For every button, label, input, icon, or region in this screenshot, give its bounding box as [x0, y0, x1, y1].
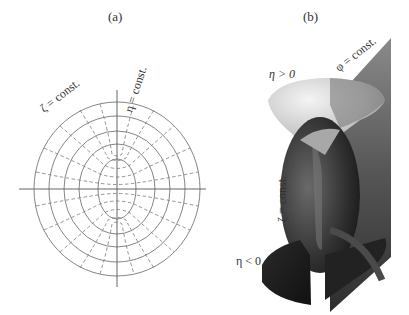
- prolate-spheroidal-cross-section: ζ = const. η = const.: [0, 0, 220, 315]
- label-eta-const: η = const.: [122, 65, 150, 114]
- label-zeta-const-3d: ζ = const.: [275, 176, 289, 222]
- label-zeta-const: ζ = const.: [37, 76, 82, 115]
- panel-b: (b): [220, 0, 409, 315]
- label-eta-negative: η < 0: [236, 254, 261, 268]
- axes: [19, 90, 206, 287]
- coordinate-surfaces-3d: η > 0 φ = const. ζ = const. η < 0: [220, 0, 409, 315]
- hyperboloid-eta-negative: [262, 240, 311, 305]
- panel-a: (a) ζ = const. η = const.: [0, 0, 220, 315]
- label-eta-positive: η > 0: [269, 67, 295, 81]
